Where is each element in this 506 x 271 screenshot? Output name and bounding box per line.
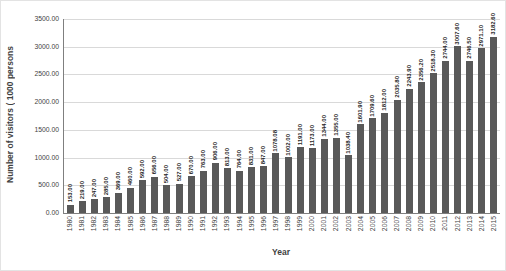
bar-slot-2010: 2518.302010 <box>427 19 439 213</box>
bar-slot-2002: 1355.002002 <box>330 19 342 213</box>
x-tick-label: 1996 <box>260 216 268 231</box>
bar-1999 <box>297 147 304 213</box>
x-tick-label: 2001 <box>320 216 328 231</box>
bar-value-label: 3182.60 <box>490 13 497 35</box>
bar-slot-1983: 285.001983 <box>100 19 112 213</box>
bar-value-label: 670.00 <box>188 156 195 174</box>
x-tick-label: 1986 <box>139 216 147 231</box>
bar-slot-1996: 847.001996 <box>258 19 270 213</box>
bar-value-label: 1173.00 <box>309 125 316 146</box>
bar-1980 <box>67 205 74 213</box>
bar-value-label: 847.00 <box>260 146 267 164</box>
bar-1987 <box>151 177 158 213</box>
bar-value-label: 592.00 <box>139 160 146 178</box>
bar-slot-1997: 1078.081997 <box>270 19 282 213</box>
x-tick-label: 1994 <box>236 216 244 231</box>
bar-1992 <box>212 163 219 213</box>
x-tick-label: 1987 <box>151 216 159 231</box>
y-tick-label: 500.00 <box>1 181 59 189</box>
bar-slot-2001: 1344.002001 <box>318 19 330 213</box>
bar-slot-1985: 460.001985 <box>125 19 137 213</box>
bar-slot-1988: 504.001988 <box>161 19 173 213</box>
bar-2014 <box>478 48 485 213</box>
bar-value-label: 504.00 <box>163 165 170 183</box>
y-tick-label: 3000.00 <box>1 43 59 51</box>
bar-value-label: 247.00 <box>91 179 98 197</box>
bar-1981 <box>79 201 86 213</box>
x-tick-label: 2013 <box>466 216 474 231</box>
bar-value-label: 2518.30 <box>430 50 437 72</box>
bar-value-label: 1078.08 <box>272 130 279 152</box>
bar-2013 <box>466 61 473 213</box>
bar-value-label: 219.00 <box>79 181 86 199</box>
x-tick-label: 1993 <box>223 216 231 231</box>
bar-1986 <box>139 180 146 213</box>
bar-1982 <box>91 199 98 213</box>
bar-slot-1980: 153.001980 <box>64 19 76 213</box>
bar-1998 <box>285 157 292 213</box>
bar-slot-1998: 1002.001998 <box>282 19 294 213</box>
bar-value-label: 764.00 <box>236 150 243 168</box>
x-tick-label: 1998 <box>284 216 292 231</box>
bar-2012 <box>454 46 461 213</box>
bar-value-label: 813.00 <box>224 148 231 166</box>
bar-value-label: 1002.00 <box>285 134 292 156</box>
x-tick-label: 2010 <box>429 216 437 231</box>
bar-value-label: 1355.00 <box>333 114 340 136</box>
x-axis-title: Year <box>63 247 499 257</box>
bar-slot-1994: 764.001994 <box>234 19 246 213</box>
x-tick-label: 1997 <box>272 216 280 231</box>
bar-value-label: 1191.00 <box>297 124 304 145</box>
x-tick-label: 1990 <box>187 216 195 231</box>
bar-2011 <box>442 61 449 213</box>
y-tick-label: 1000.00 <box>1 154 59 162</box>
x-tick-label: 2003 <box>345 216 353 231</box>
bar-1985 <box>127 188 134 213</box>
x-tick-label: 1983 <box>102 216 110 231</box>
bar-value-label: 1038.40 <box>345 132 352 154</box>
bar-slot-2005: 1709.602005 <box>367 19 379 213</box>
bar-slot-1987: 656.001987 <box>149 19 161 213</box>
plot-area: 153.001980219.001981247.001982285.001983… <box>63 19 500 214</box>
bar-value-label: 2746.50 <box>466 37 473 59</box>
y-tick-label: 2500.00 <box>1 70 59 78</box>
y-tick-label: 1500.00 <box>1 126 59 134</box>
x-tick-label: 2011 <box>441 216 449 231</box>
x-tick-label: 2005 <box>369 216 377 231</box>
bar-value-label: 1812.00 <box>381 89 388 111</box>
bar-slot-2013: 2746.502013 <box>464 19 476 213</box>
bar-value-label: 1601.90 <box>357 101 364 123</box>
x-tick-label: 1989 <box>175 216 183 231</box>
x-tick-label: 2007 <box>393 216 401 231</box>
bar-slot-2007: 2035.802007 <box>391 19 403 213</box>
x-tick-label: 1999 <box>296 216 304 231</box>
x-tick-label: 2014 <box>478 216 486 231</box>
bar-1988 <box>163 185 170 213</box>
bar-2004 <box>357 124 364 213</box>
bar-1983 <box>103 197 110 213</box>
y-tick-label: 2000.00 <box>1 98 59 106</box>
x-tick-label: 2000 <box>308 216 316 231</box>
bar-chart: Number of visitors ( 1000 persons 3500.0… <box>0 0 506 271</box>
bar-1996 <box>260 166 267 213</box>
x-tick-label: 2006 <box>381 216 389 231</box>
x-tick-label: 1992 <box>211 216 219 231</box>
bar-1997 <box>272 153 279 213</box>
x-tick-label: 1984 <box>114 216 122 231</box>
bar-slot-2015: 3182.602015 <box>488 19 500 213</box>
bar-value-label: 3007.60 <box>454 23 461 45</box>
bar-slot-1992: 906.001992 <box>209 19 221 213</box>
bar-2005 <box>369 118 376 213</box>
bar-value-label: 656.00 <box>151 156 158 174</box>
bar-value-label: 153.00 <box>67 184 74 202</box>
bar-slot-2003: 1038.402003 <box>343 19 355 213</box>
bar-value-label: 2035.80 <box>394 76 401 98</box>
bar-slot-1981: 219.001981 <box>76 19 88 213</box>
bar-slot-2004: 1601.902004 <box>355 19 367 213</box>
x-tick-label: 1985 <box>127 216 135 231</box>
bar-slot-1999: 1191.001999 <box>294 19 306 213</box>
bar-2003 <box>345 155 352 213</box>
bar-slot-2009: 2356.202009 <box>415 19 427 213</box>
bar-value-label: 460.00 <box>127 167 134 185</box>
bar-value-label: 2971.10 <box>478 25 485 47</box>
